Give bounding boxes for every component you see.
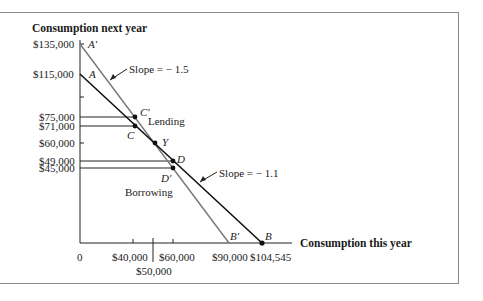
- point-y: Y: [162, 137, 168, 148]
- point-c-prime: C′: [140, 107, 150, 118]
- y-tick-45000: $45,000: [39, 163, 75, 174]
- y-axis-label: Consumption next year: [32, 23, 147, 35]
- point-b-prime: B′: [230, 231, 239, 242]
- y-tick-115000: $115,000: [33, 69, 74, 80]
- x-tick-40000: $40,000: [112, 252, 148, 263]
- y-tick-60000: $60,000: [39, 138, 75, 149]
- x-tick-90000: $90,000: [212, 252, 248, 263]
- borrowing-label: Borrowing: [125, 187, 173, 198]
- point-a: A: [89, 69, 96, 80]
- x-tick-50000: $50,000: [136, 266, 172, 277]
- point-a-prime: A′: [88, 39, 97, 50]
- point-b: B: [265, 231, 272, 242]
- point-c: C: [127, 130, 134, 141]
- x-axis-label: Consumption this year: [300, 238, 412, 250]
- y-tick-71000: $71,000: [39, 121, 75, 132]
- lending-label: Lending: [148, 116, 185, 127]
- point-d: D: [177, 154, 185, 165]
- x-tick-0: 0: [77, 252, 83, 263]
- slope-annotation-1-5: Slope = − 1.5: [129, 64, 188, 75]
- x-tick-104545: $104,545: [250, 252, 291, 263]
- point-d-prime: D′: [161, 173, 171, 184]
- x-tick-60000: $60,000: [159, 252, 195, 263]
- slope-annotation-1-1: Slope = − 1.1: [219, 168, 278, 179]
- y-tick-135000: $135,000: [33, 39, 74, 50]
